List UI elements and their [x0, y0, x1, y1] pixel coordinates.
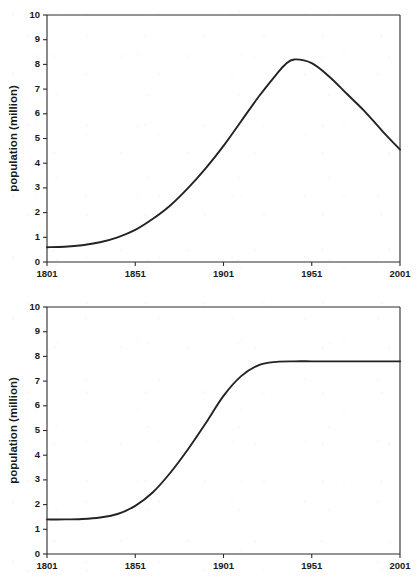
population-growth-chart: 01234567891018011851190119512001populati…: [0, 292, 417, 584]
population-decline-chart: 01234567891018011851190119512001populati…: [0, 0, 417, 292]
y-tick-label: 10: [29, 301, 40, 312]
x-tick-label: 1801: [36, 560, 58, 571]
y-tick-label: 0: [35, 548, 40, 559]
y-tick-label: 9: [35, 325, 40, 336]
x-tick-label: 1851: [125, 560, 147, 571]
y-tick-label: 5: [35, 132, 41, 143]
x-tick-label: 2001: [389, 268, 411, 279]
y-tick-label: 10: [29, 9, 40, 20]
y-tick-label: 6: [35, 399, 40, 410]
y-tick-label: 1: [35, 231, 41, 242]
y-tick-label: 8: [35, 350, 40, 361]
y-tick-label: 1: [35, 523, 41, 534]
chart-canvas-top: 01234567891018011851190119512001populati…: [0, 0, 417, 292]
y-tick-label: 7: [35, 375, 40, 386]
y-axis-title: population (million): [7, 377, 19, 484]
y-tick-label: 4: [35, 157, 41, 168]
y-tick-label: 3: [35, 181, 40, 192]
data-series-curve: [47, 59, 400, 247]
y-tick-label: 2: [35, 206, 40, 217]
y-tick-label: 2: [35, 498, 40, 509]
y-tick-label: 9: [35, 33, 40, 44]
y-axis-title: population (million): [7, 85, 19, 192]
y-tick-label: 0: [35, 256, 40, 267]
y-tick-label: 7: [35, 83, 40, 94]
x-tick-label: 1801: [36, 268, 58, 279]
data-series-curve: [47, 361, 400, 519]
x-tick-label: 1951: [301, 560, 323, 571]
x-tick-label: 1901: [213, 268, 235, 279]
y-tick-label: 6: [35, 107, 40, 118]
x-tick-label: 1851: [125, 268, 147, 279]
x-tick-label: 1901: [213, 560, 235, 571]
y-tick-label: 3: [35, 473, 40, 484]
x-tick-label: 2001: [389, 560, 411, 571]
x-tick-label: 1951: [301, 268, 323, 279]
y-tick-label: 4: [35, 449, 41, 460]
y-tick-label: 5: [35, 424, 41, 435]
chart-canvas-bottom: 01234567891018011851190119512001populati…: [0, 292, 417, 584]
y-tick-label: 8: [35, 58, 40, 69]
